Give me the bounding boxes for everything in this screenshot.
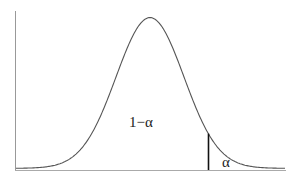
confidence-area-label: 1−α xyxy=(129,115,153,130)
density-curve xyxy=(16,18,285,169)
distribution-figure: 1−α α xyxy=(0,0,296,181)
density-plot xyxy=(0,0,296,181)
tail-area-label: α xyxy=(222,155,230,170)
